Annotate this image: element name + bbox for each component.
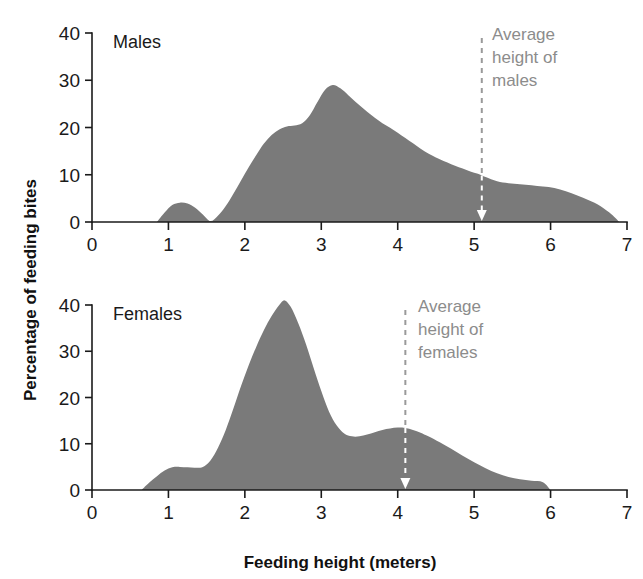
x-tick-label: 2 [240,234,251,255]
x-tick-label: 7 [622,502,633,523]
y-tick-label: 30 [59,70,80,91]
y-tick-label: 30 [59,341,80,362]
chart-panel-males: 01020304001234567MalesAverageheight ofma… [59,23,632,255]
y-tick-label: 10 [59,434,80,455]
x-tick-label: 6 [545,234,556,255]
x-tick-label: 7 [622,234,633,255]
x-tick-label: 5 [469,502,480,523]
y-tick-label: 40 [59,23,80,44]
y-tick-label: 10 [59,165,80,186]
y-axis-title: Percentage of feeding bites [21,179,40,401]
x-tick-label: 2 [240,502,251,523]
annotation-line: females [418,343,478,362]
x-tick-label: 4 [392,502,403,523]
chart-panel-females: 01020304001234567FemalesAverageheight of… [59,295,632,523]
annotation-line: height of [492,48,557,67]
area-series-females [142,300,551,490]
y-tick-label: 0 [69,212,80,233]
annotation-line: males [492,71,537,90]
x-tick-label: 1 [163,234,174,255]
x-axis-title: Feeding height (meters) [244,553,437,572]
x-tick-label: 0 [87,234,98,255]
y-tick-label: 20 [59,118,80,139]
x-tick-label: 4 [392,234,403,255]
annotation-line: Average [492,25,555,44]
annotation-line: Average [418,297,481,316]
x-tick-label: 1 [163,502,174,523]
y-tick-label: 20 [59,388,80,409]
x-tick-label: 3 [316,502,327,523]
x-tick-label: 0 [87,502,98,523]
x-tick-label: 3 [316,234,327,255]
y-tick-label: 40 [59,295,80,316]
x-tick-label: 6 [545,502,556,523]
x-tick-label: 5 [469,234,480,255]
annotation-line: height of [418,320,483,339]
area-series-males [157,85,619,222]
y-tick-label: 0 [69,480,80,501]
feeding-height-figure: 01020304001234567MalesAverageheight ofma… [0,0,643,579]
panel-title-males: Males [113,32,161,52]
panel-title-females: Females [113,304,182,324]
